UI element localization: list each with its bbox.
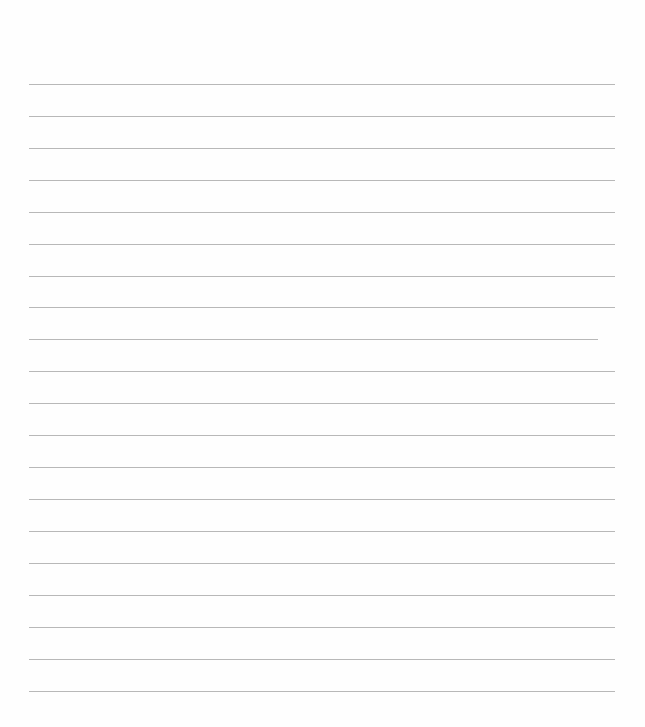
ruled-line — [29, 659, 615, 660]
ruled-line — [29, 307, 615, 308]
ruled-line — [29, 467, 615, 468]
ruled-line — [29, 84, 615, 85]
ruled-line — [29, 339, 598, 340]
ruled-line — [29, 244, 615, 245]
ruled-line — [29, 116, 615, 117]
ruled-line — [29, 595, 615, 596]
ruled-line — [29, 276, 615, 277]
ruled-line — [29, 403, 615, 404]
ruled-line — [29, 531, 615, 532]
ruled-line — [29, 435, 615, 436]
ruled-line — [29, 148, 615, 149]
lined-paper-page — [0, 0, 645, 727]
ruled-line — [29, 627, 615, 628]
ruled-line — [29, 691, 615, 692]
ruled-line — [29, 563, 615, 564]
ruled-line — [29, 499, 615, 500]
ruled-line — [29, 212, 615, 213]
ruled-line — [29, 180, 615, 181]
ruled-line — [29, 371, 615, 372]
